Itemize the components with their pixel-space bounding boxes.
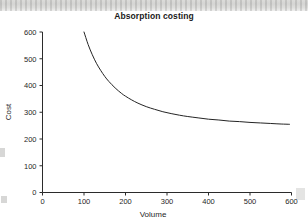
x-tick-label: 600	[285, 197, 298, 206]
cost-curve-series	[84, 32, 289, 124]
chart-svg: 0100200300400500600 0100200300400500600 …	[0, 0, 308, 222]
x-axis: 0100200300400500600	[40, 193, 297, 207]
y-tick-label: 0	[32, 188, 36, 197]
y-tick-label: 500	[24, 55, 37, 64]
x-tick-label: 300	[161, 197, 174, 206]
x-tick-label: 500	[244, 197, 257, 206]
x-tick-label: 0	[40, 197, 44, 206]
x-tick-label: 200	[119, 197, 132, 206]
y-tick-label: 200	[24, 135, 37, 144]
y-tick-label: 300	[24, 108, 37, 117]
y-tick-label: 600	[24, 28, 37, 37]
x-tick-label: 400	[202, 197, 215, 206]
x-axis-title: Volume	[140, 210, 167, 219]
x-tick-label: 100	[78, 197, 91, 206]
chart-figure: 0100200300400500600 0100200300400500600 …	[0, 0, 308, 222]
y-axis-tick-labels: 0100200300400500600	[24, 28, 37, 198]
y-tick-label: 100	[24, 162, 37, 171]
y-axis-title: Cost	[4, 103, 13, 120]
y-axis: 0100200300400500600	[24, 28, 43, 198]
y-tick-label: 400	[24, 81, 37, 90]
x-axis-tick-labels: 0100200300400500600	[40, 197, 297, 206]
